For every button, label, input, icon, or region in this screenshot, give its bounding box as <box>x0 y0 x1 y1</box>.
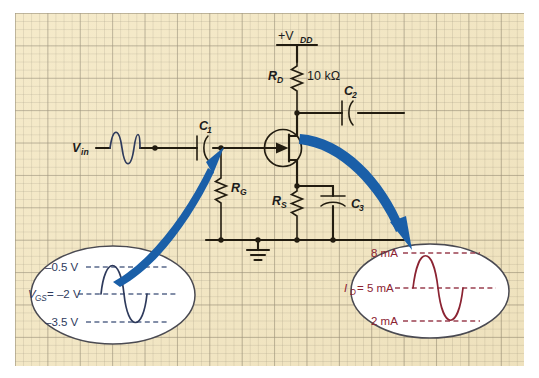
drain-current-callout: 8 mA I D = 5 mA 2 mA <box>344 244 509 338</box>
left-level-top-label: –0.5 V <box>45 261 79 273</box>
drain-resistor-label: R D 10 kΩ <box>268 69 340 85</box>
cap-c2-plate-right <box>349 101 353 125</box>
drain-output-branch <box>294 101 404 125</box>
source-return-node-dot <box>294 237 299 242</box>
ground-rail <box>206 237 404 242</box>
source-resistor <box>292 183 303 240</box>
supply-plus: +V <box>278 29 294 43</box>
source-resistor-symbol: R <box>272 194 281 208</box>
output-pointer-arrow <box>299 134 412 250</box>
cap-c3-label: C 3 <box>351 197 364 213</box>
cap-c2-subscript: 2 <box>351 90 357 100</box>
source-resistor-subscript: S <box>281 200 287 210</box>
drain-resistor-symbol: R <box>268 69 277 83</box>
vgs-subscript: GS <box>35 294 47 303</box>
circuit-diagram: .wire { stroke:#221c10; stroke-width:2.1… <box>0 0 539 378</box>
input-source-subscript: in <box>81 147 89 157</box>
gate-resistor-label: R G <box>231 181 247 197</box>
ground-symbol <box>247 240 269 260</box>
cap-c1-plate-right <box>204 136 208 160</box>
gate-return-node-dot <box>218 237 223 242</box>
cap-c1-label: C 1 <box>199 119 212 135</box>
source-resistor-label: R S <box>272 194 287 210</box>
cap-c2-label: C 2 <box>344 84 357 100</box>
output-arrow-shaft <box>299 134 404 232</box>
supply-label: +V DD <box>278 29 312 45</box>
supply-subscript: DD <box>300 35 312 45</box>
left-level-bottom-label: –3.5 V <box>45 316 79 328</box>
cap-c3-subscript: 3 <box>359 203 364 213</box>
bypass-return-node-dot <box>330 237 335 242</box>
input-waveform <box>110 132 140 164</box>
gate-resistor-subscript: G <box>240 187 247 197</box>
drain-resistor-value: 10 kΩ <box>307 69 340 83</box>
vgs-value: = –2 V <box>47 288 81 300</box>
id-value: = 5 mA <box>357 282 394 294</box>
figure-canvas: .wire { stroke:#221c10; stroke-width:2.1… <box>0 0 539 378</box>
input-source: V in <box>72 132 155 164</box>
gate-resistor-symbol: R <box>231 181 240 195</box>
right-level-bottom-label: 2 mA <box>371 315 398 327</box>
cap-c1-subscript: 1 <box>207 125 212 135</box>
drain-resistor-subscript: D <box>277 75 283 85</box>
n-channel-jfet <box>253 113 302 186</box>
output-arrow-head <box>390 216 412 250</box>
gate-input-branch <box>152 136 253 160</box>
right-level-top-label: 8 mA <box>371 247 398 259</box>
supply-rail <box>277 45 317 62</box>
gate-source-voltage-callout: –0.5 V V GS = –2 V –3.5 V <box>28 246 195 344</box>
bypass-capacitor <box>297 186 345 240</box>
id-subscript: D <box>350 288 356 297</box>
id-symbol: I <box>344 282 348 294</box>
